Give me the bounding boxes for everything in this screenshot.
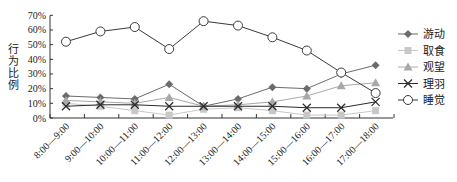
- x-axis-ticks: 8:00—9:009:00—10:0010:00—11:0011:00—12:0…: [31, 121, 381, 168]
- data-point: [199, 17, 208, 26]
- data-point: [165, 80, 173, 88]
- data-point: [62, 37, 71, 46]
- data-point: [268, 33, 277, 42]
- line-chart: 0%10%20%30%40%50%60%70% 8:00—9:009:00—10…: [0, 0, 457, 182]
- legend-label: 游动: [423, 28, 445, 41]
- data-point: [165, 45, 174, 54]
- data-point: [166, 112, 173, 119]
- y-tick-label: 40%: [28, 54, 46, 65]
- data-point: [372, 107, 379, 114]
- legend-item: 取食: [398, 44, 445, 58]
- legend-marker: [404, 96, 413, 105]
- data-point: [338, 112, 345, 119]
- data-point: [234, 21, 243, 30]
- y-tick-label: 20%: [28, 83, 46, 94]
- y-tick-label: 10%: [28, 98, 46, 109]
- legend-label: 理羽: [423, 78, 445, 91]
- legend: 游动取食观望理羽睡觉: [398, 28, 445, 107]
- data-point: [165, 93, 174, 101]
- series-group: [62, 17, 381, 119]
- legend-item: 睡觉: [398, 94, 445, 107]
- y-axis-ticks: 0%10%20%30%40%50%60%70%: [28, 10, 53, 124]
- series-4: [62, 17, 381, 98]
- legend-marker: [405, 47, 412, 54]
- series-line: [66, 21, 376, 93]
- data-point: [371, 89, 380, 98]
- data-point: [268, 83, 276, 91]
- data-point: [371, 78, 380, 86]
- series-3: [62, 98, 380, 112]
- data-point: [302, 46, 311, 55]
- data-point: [337, 68, 346, 77]
- y-tick-label: 30%: [28, 68, 46, 79]
- y-tick-label: 50%: [28, 39, 46, 50]
- legend-item: 理羽: [398, 78, 445, 91]
- legend-label: 观望: [423, 61, 445, 74]
- legend-label: 取食: [423, 44, 445, 58]
- legend-item: 游动: [398, 28, 445, 41]
- data-point: [372, 61, 380, 69]
- series-line: [66, 65, 376, 106]
- legend-item: 观望: [398, 61, 445, 74]
- legend-label: 睡觉: [423, 94, 445, 107]
- y-tick-label: 0%: [33, 113, 46, 124]
- data-point: [96, 27, 105, 36]
- data-point: [303, 112, 310, 119]
- data-point: [303, 85, 311, 93]
- y-tick-label: 70%: [28, 10, 46, 21]
- data-point: [131, 107, 138, 114]
- y-axis-title: 行为比例: [8, 43, 19, 92]
- data-point: [130, 23, 139, 32]
- series-0: [62, 61, 380, 110]
- y-tick-label: 60%: [28, 24, 46, 35]
- legend-marker: [404, 30, 412, 38]
